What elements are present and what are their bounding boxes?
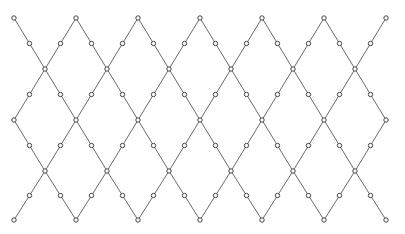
lattice-node: [151, 143, 155, 147]
lattice-node: [275, 143, 279, 147]
lattice-node: [275, 41, 279, 45]
lattice-node: [275, 193, 279, 197]
lattice-node: [120, 92, 124, 96]
lattice-node: [337, 143, 341, 147]
lattice-node: [120, 193, 124, 197]
lattice-node: [306, 143, 310, 147]
lattice-node: [182, 41, 186, 45]
lattice-node: [43, 67, 47, 71]
diamond-lattice-diagram: [0, 0, 405, 234]
lattice-node: [322, 218, 326, 222]
lattice-node: [353, 169, 357, 173]
lattice-node: [229, 169, 233, 173]
lattice-node: [151, 193, 155, 197]
lattice-node: [151, 41, 155, 45]
lattice-node: [74, 218, 78, 222]
lattice-node: [182, 92, 186, 96]
lattice-node: [182, 143, 186, 147]
lattice-node: [27, 41, 31, 45]
lattice-node: [337, 92, 341, 96]
lattice-node: [12, 16, 16, 20]
lattice-node: [213, 143, 217, 147]
lattice-node: [74, 16, 78, 20]
lattice-node: [244, 193, 248, 197]
lattice-node: [43, 169, 47, 173]
lattice-node: [89, 41, 93, 45]
lattice-node: [198, 118, 202, 122]
lattice-node: [291, 169, 295, 173]
lattice-node: [58, 92, 62, 96]
lattice-node: [136, 16, 140, 20]
lattice-node: [89, 92, 93, 96]
lattice-node: [167, 169, 171, 173]
lattice-node: [198, 218, 202, 222]
lattice-node: [58, 193, 62, 197]
lattice-node: [337, 41, 341, 45]
lattice-node: [105, 169, 109, 173]
lattice-node: [384, 218, 388, 222]
lattice-node: [229, 67, 233, 71]
lattice-node: [260, 218, 264, 222]
lattice-node: [306, 193, 310, 197]
lattice-node: [74, 118, 78, 122]
lattice-node: [12, 118, 16, 122]
lattice-node: [27, 92, 31, 96]
lattice-node: [244, 92, 248, 96]
lattice-node: [368, 193, 372, 197]
lattice-node: [198, 16, 202, 20]
lattice-node: [151, 92, 155, 96]
lattice-node: [136, 118, 140, 122]
lattice-node: [89, 143, 93, 147]
lattice-node: [306, 41, 310, 45]
lattice-node: [384, 118, 388, 122]
lattice-node: [213, 41, 217, 45]
lattice-node: [213, 193, 217, 197]
lattice-node: [337, 193, 341, 197]
lattice-node: [167, 67, 171, 71]
lattice-node: [368, 41, 372, 45]
lattice-node: [353, 67, 357, 71]
lattice-node: [306, 92, 310, 96]
lattice-node: [27, 143, 31, 147]
lattice-node: [322, 118, 326, 122]
lattice-node: [58, 41, 62, 45]
lattice-node: [322, 16, 326, 20]
lattice-node: [260, 16, 264, 20]
lattice-node: [12, 218, 16, 222]
lattice-node: [136, 218, 140, 222]
lattice-node: [291, 67, 295, 71]
lattice-node: [58, 143, 62, 147]
lattice-node: [182, 193, 186, 197]
lattice-node: [368, 92, 372, 96]
lattice-node: [89, 193, 93, 197]
lattice-node: [244, 41, 248, 45]
lattice-node: [105, 67, 109, 71]
lattice-node: [120, 41, 124, 45]
lattice-node: [368, 143, 372, 147]
lattice-node: [275, 92, 279, 96]
lattice-node: [120, 143, 124, 147]
lattice-nodes: [12, 16, 388, 222]
lattice-node: [244, 143, 248, 147]
lattice-node: [27, 193, 31, 197]
lattice-node: [213, 92, 217, 96]
lattice-node: [384, 16, 388, 20]
lattice-node: [260, 118, 264, 122]
